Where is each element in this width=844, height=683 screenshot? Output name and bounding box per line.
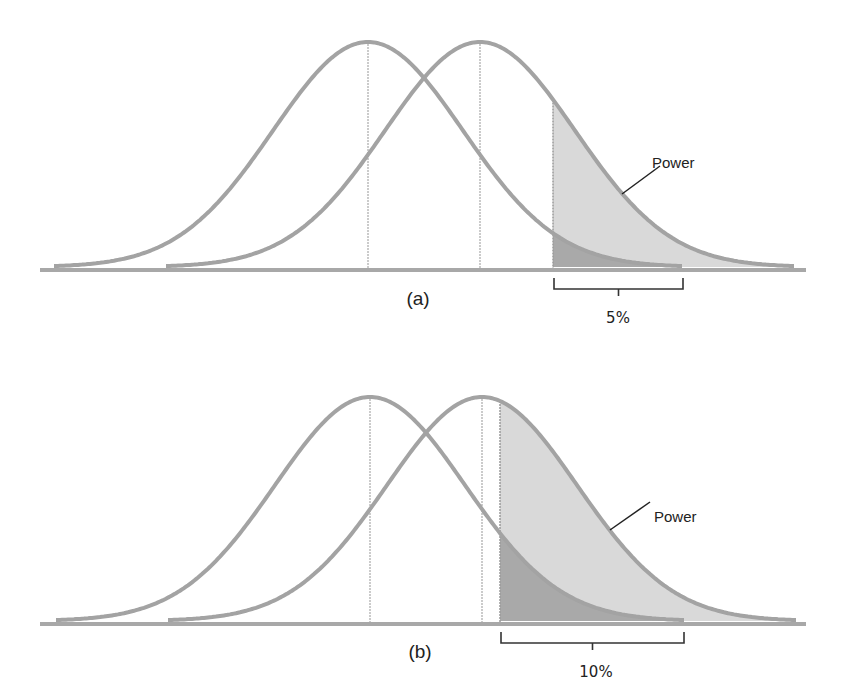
alpha-bracket xyxy=(501,632,684,650)
panel-label: (b) xyxy=(408,641,431,662)
panel-a: Power(a)5% xyxy=(40,42,806,327)
statistical-power-figure: Power(a)5% Power(b)10% xyxy=(0,0,844,683)
power-label: Power xyxy=(654,508,697,525)
power-label: Power xyxy=(652,154,695,171)
power-pointer-line xyxy=(610,502,650,530)
alpha-percent-label: 5% xyxy=(606,309,630,327)
panel-b: Power(b)10% xyxy=(40,397,806,681)
alpha-bracket xyxy=(554,278,683,296)
alpha-percent-label: 10% xyxy=(579,663,612,681)
panel-label: (a) xyxy=(406,288,429,309)
power-region xyxy=(553,100,794,268)
